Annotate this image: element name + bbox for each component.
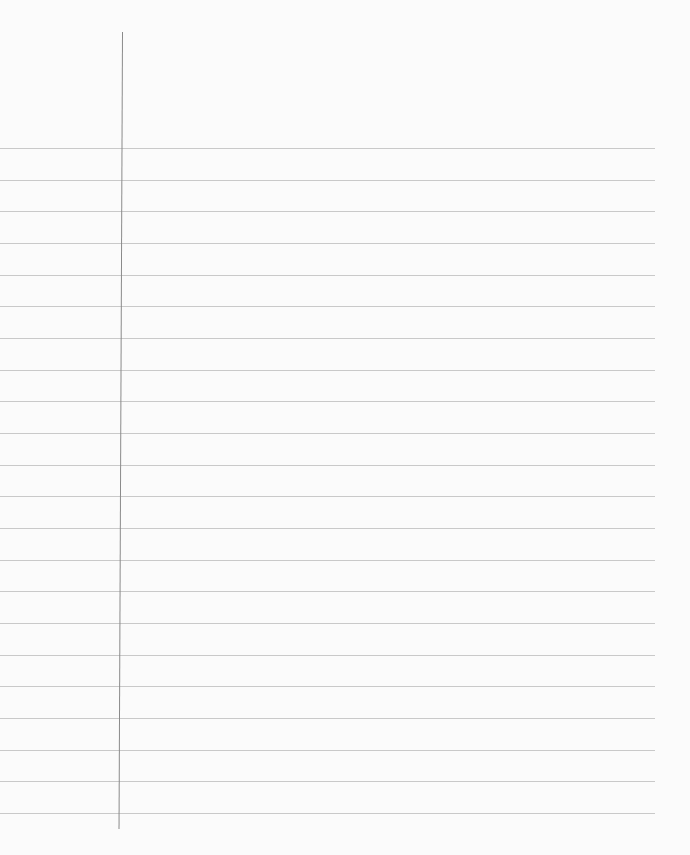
- ruled-line: [0, 180, 655, 181]
- ruled-line: [0, 433, 655, 434]
- ruled-line: [0, 370, 655, 371]
- ruled-line: [0, 528, 655, 529]
- ruled-line: [0, 306, 655, 307]
- ruled-line: [0, 148, 655, 149]
- ruled-line: [0, 401, 655, 402]
- ruled-line: [0, 496, 655, 497]
- ruled-line: [0, 560, 655, 561]
- ruled-line: [0, 781, 655, 782]
- ruled-line: [0, 718, 655, 719]
- ruled-line: [0, 211, 655, 212]
- ruled-line: [0, 623, 655, 624]
- ruled-line: [0, 275, 655, 276]
- margin-line: [119, 32, 123, 829]
- ruled-line: [0, 243, 655, 244]
- ruled-line: [0, 465, 655, 466]
- ruled-line: [0, 591, 655, 592]
- ruled-line: [0, 813, 655, 814]
- lined-paper: [0, 0, 690, 855]
- ruled-line: [0, 655, 655, 656]
- ruled-line: [0, 686, 655, 687]
- ruled-line: [0, 338, 655, 339]
- ruled-line: [0, 750, 655, 751]
